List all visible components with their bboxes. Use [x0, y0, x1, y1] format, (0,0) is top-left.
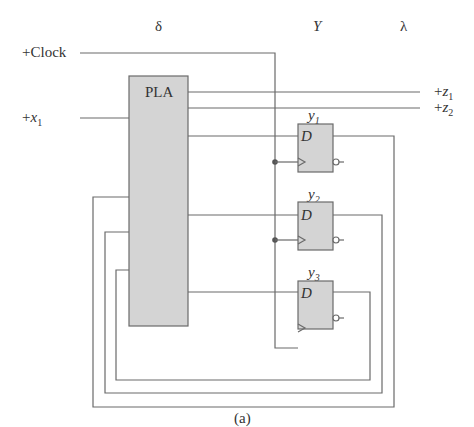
- flip-flop-y2: y2 D: [298, 186, 344, 250]
- clock-line: [80, 53, 298, 348]
- figure-caption: (a): [234, 410, 251, 427]
- lambda-header: λ: [400, 18, 408, 34]
- delta-header: δ: [155, 18, 162, 34]
- ff3-d-label: D: [300, 285, 312, 301]
- ff2-d-label: D: [300, 207, 312, 223]
- ff3-inverter-bubble-icon: [333, 315, 339, 321]
- ff1-label: y1: [306, 107, 320, 126]
- flip-flop-y1: y1 D: [298, 107, 344, 172]
- pla-label: PLA: [145, 84, 174, 100]
- ff1-inverter-bubble-icon: [333, 159, 339, 165]
- ff1-d-label: D: [300, 128, 312, 144]
- y-header: Y: [313, 18, 323, 34]
- flip-flop-y3: y3 D: [298, 264, 344, 332]
- pla-sequential-circuit: δ Y λ +Clock +x1 PLA +z1 +z2 y1 D y2 D y…: [0, 0, 474, 427]
- x1-label: +x1: [22, 109, 42, 128]
- clock-label: +Clock: [22, 44, 67, 60]
- pla-block: [129, 76, 188, 326]
- ff3-label: y3: [306, 264, 320, 283]
- ff2-inverter-bubble-icon: [333, 237, 339, 243]
